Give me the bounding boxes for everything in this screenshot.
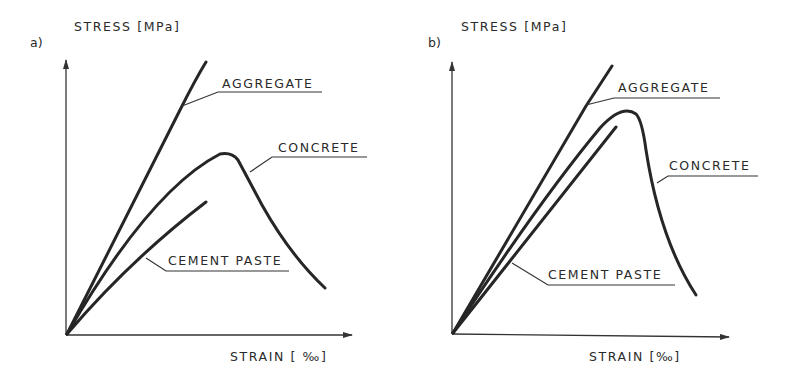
panel-b-cement-paste-curve bbox=[453, 127, 616, 333]
panel-a-concrete-curve bbox=[67, 154, 325, 334]
stress-strain-figure: a) STRESS [MPa] STRAIN [ ‰] AGGREGATE CO… bbox=[0, 0, 791, 383]
panel-b-concrete-leader bbox=[657, 176, 758, 183]
panel-b-y-axis-label: STRESS [MPa] bbox=[461, 19, 567, 34]
panel-a: a) STRESS [MPa] STRAIN [ ‰] AGGREGATE CO… bbox=[30, 19, 367, 364]
panel-a-aggregate-curve bbox=[67, 62, 206, 334]
panel-a-concrete-label: CONCRETE bbox=[278, 140, 360, 155]
panel-a-label: a) bbox=[30, 35, 43, 50]
panel-a-cement-paste-label: CEMENT PASTE bbox=[168, 253, 282, 268]
panel-a-aggregate-leader bbox=[182, 92, 322, 106]
panel-a-x-axis-label: STRAIN [ ‰] bbox=[230, 349, 327, 364]
panel-b-x-axis bbox=[452, 334, 729, 337]
panel-b-aggregate-label: AGGREGATE bbox=[618, 80, 710, 95]
panel-a-cement-paste-curve bbox=[67, 202, 206, 334]
panel-a-aggregate-label: AGGREGATE bbox=[222, 76, 314, 91]
panel-b-aggregate-curve bbox=[453, 66, 612, 333]
panel-a-y-axis-label: STRESS [MPa] bbox=[74, 19, 180, 34]
panel-b-concrete-curve bbox=[453, 111, 696, 333]
panel-b-concrete-label: CONCRETE bbox=[669, 158, 751, 173]
panel-a-concrete-leader bbox=[250, 157, 367, 172]
panel-b-cement-paste-label: CEMENT PASTE bbox=[548, 267, 662, 282]
panel-b: b) STRESS [MPa] STRAIN [‰] AGGREGATE CON… bbox=[428, 19, 758, 364]
panel-b-x-axis-label: STRAIN [‰] bbox=[589, 349, 681, 364]
panel-b-label: b) bbox=[428, 35, 441, 50]
panel-b-aggregate-leader bbox=[586, 98, 720, 105]
